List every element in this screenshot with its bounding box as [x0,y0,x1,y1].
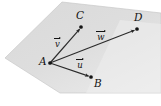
vector-label-u: u [76,58,84,70]
vector-label-w: w [96,30,106,42]
point-C-dot [79,25,83,29]
point-label-C: C [76,10,84,21]
vector-diagram-figure: A B C D v w u [0,0,161,106]
point-label-B: B [94,78,102,89]
point-B-dot [89,75,93,79]
point-label-A: A [39,56,47,67]
point-label-D: D [134,12,142,23]
vector-arrow-overbar-w [96,30,106,33]
vector-arrow-overbar-u [76,58,84,61]
vector-arrow-overbar-v [54,37,61,40]
point-D-dot [135,27,139,31]
point-A-dot [48,61,52,65]
vector-label-v: v [54,37,61,49]
